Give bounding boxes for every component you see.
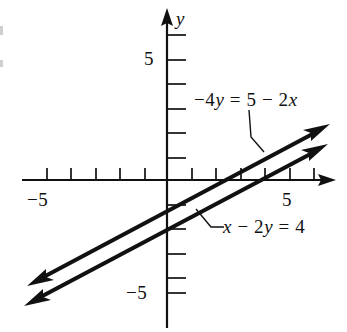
x-axis-tick-label-5: 5 — [282, 190, 292, 209]
y-axis-tick-label-negative-5: −5 — [126, 283, 147, 302]
equation-label-bottom: x − 2y = 4 — [223, 217, 305, 236]
y-axis-tick-label-5: 5 — [144, 49, 154, 68]
y-axis-ticks — [167, 35, 186, 293]
y-axis — [161, 8, 173, 328]
x-axis — [22, 174, 336, 186]
equation-label-top: −4y = 5 − 2x — [194, 90, 298, 109]
coordinate-plane — [0, 0, 347, 332]
graph-figure: 5 −5 −5 5 y −4y = 5 − 2x x − 2y = 4 — [0, 0, 347, 332]
leader-line-equation-top — [249, 110, 264, 152]
x-axis-tick-label-negative-5: −5 — [27, 190, 48, 209]
y-axis-name-label: y — [176, 9, 184, 28]
